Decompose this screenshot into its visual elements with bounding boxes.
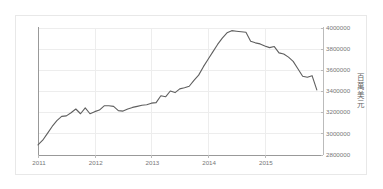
- y-tick-label: 4000000: [326, 24, 351, 31]
- x-axis-tick-labels: 20112012201320142015: [32, 159, 273, 166]
- line-chart[interactable]: 2800000300000032000003400000360000038000…: [0, 0, 383, 189]
- x-tick-label: 2014: [202, 159, 216, 166]
- x-tick-label: 2012: [89, 159, 103, 166]
- y-axis-title-char: 萬: [357, 81, 364, 91]
- data-series-line: [38, 31, 317, 145]
- x-tick-label: 2015: [259, 159, 273, 166]
- y-tick-label: 3000000: [326, 130, 351, 137]
- y-axis-tick-labels: 2800000300000032000003400000360000038000…: [326, 24, 351, 158]
- y-axis-title-char: 美: [357, 90, 365, 100]
- horizontal-gridlines: [38, 29, 321, 156]
- y-axis-title-char: 百: [357, 73, 365, 82]
- x-tick-label: 2011: [32, 159, 46, 166]
- y-tick-label: 3800000: [326, 45, 351, 52]
- y-tick-label: 3600000: [326, 66, 351, 73]
- y-axis-title-char: 元: [357, 100, 365, 109]
- y-axis-title: 百萬美元: [357, 73, 365, 109]
- y-tick-label: 3400000: [326, 87, 351, 94]
- x-tick-label: 2013: [146, 159, 160, 166]
- y-tick-label: 3200000: [326, 108, 351, 115]
- y-tick-label: 2800000: [326, 151, 351, 158]
